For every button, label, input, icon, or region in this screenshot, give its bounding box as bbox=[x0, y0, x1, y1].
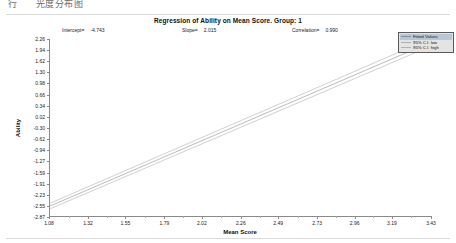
header-caption: 行光度分布图 bbox=[8, 0, 83, 10]
x-axis-title: Mean Score bbox=[49, 229, 431, 235]
y-tick-label: 0.98 bbox=[35, 80, 45, 86]
x-tick-label: 2.96 bbox=[350, 220, 360, 226]
x-tick-label: 1.32 bbox=[83, 220, 93, 226]
x-tick-label: 1.08 bbox=[44, 220, 54, 226]
series-line bbox=[49, 39, 431, 204]
x-tick-label: 2.73 bbox=[312, 220, 322, 226]
header-caption-right: 光度分布图 bbox=[36, 0, 84, 9]
intercept-label: Intercept= bbox=[62, 27, 84, 33]
y-tick-label: -1.59 bbox=[34, 170, 45, 176]
correlation-value: 0.990 bbox=[325, 27, 338, 33]
series-line bbox=[49, 46, 431, 209]
slope-stat: Slope=2.015 bbox=[182, 27, 216, 33]
correlation-label: Correlation= bbox=[292, 27, 319, 33]
legend-swatch-icon bbox=[401, 42, 411, 43]
y-tick-label: 1.94 bbox=[35, 47, 45, 53]
x-tick-label: 2.26 bbox=[236, 220, 246, 226]
chart-canvas: Regression of Ability on Mean Score. Gro… bbox=[0, 15, 456, 243]
correlation-stat: Correlation=0.990 bbox=[292, 27, 338, 33]
y-tick-label: 1.62 bbox=[35, 58, 45, 64]
chart-title: Regression of Ability on Mean Score. Gro… bbox=[0, 17, 456, 24]
y-tick-label: -0.94 bbox=[34, 147, 45, 153]
legend-swatch-icon bbox=[401, 36, 411, 37]
intercept-value: -4.743 bbox=[90, 27, 104, 33]
series-line bbox=[49, 42, 431, 206]
intercept-stat: Intercept=-4.743 bbox=[62, 27, 105, 33]
x-tick-label: 1.55 bbox=[121, 220, 131, 226]
x-tick-label: 2.49 bbox=[273, 220, 283, 226]
slope-value: 2.015 bbox=[204, 27, 217, 33]
y-tick-label: 0.34 bbox=[35, 103, 45, 109]
y-tick-label: -2.55 bbox=[34, 203, 45, 209]
y-tick-label: 1.30 bbox=[35, 69, 45, 75]
legend-item-label: 95% C.I. low bbox=[413, 40, 437, 45]
x-tick-label: 2.02 bbox=[197, 220, 207, 226]
y-tick-label: -2.23 bbox=[34, 192, 45, 198]
y-tick-label: -1.27 bbox=[34, 158, 45, 164]
y-tick-label: 0.02 bbox=[35, 114, 45, 120]
legend-item-label: 95% C.I. high bbox=[413, 45, 439, 50]
x-tick bbox=[431, 216, 432, 219]
plot-area: 2.261.941.621.300.980.660.340.02-0.30-0.… bbox=[49, 39, 431, 217]
x-tick-label: 1.79 bbox=[160, 220, 170, 226]
regression-plot-window: 行光度分布图 Regression of Ability on Mean Sco… bbox=[0, 0, 456, 243]
legend-item[interactable]: 95% C.I. high bbox=[400, 45, 452, 51]
footer-divider bbox=[6, 238, 450, 239]
header-caption-left: 行 bbox=[8, 0, 18, 9]
y-tick-label: -0.62 bbox=[34, 136, 45, 142]
legend-item-label: Fitted Values bbox=[413, 34, 438, 39]
window-header-strip: 行光度分布图 bbox=[0, 0, 456, 15]
regression-lines bbox=[49, 39, 431, 217]
x-tick-label: 3.19 bbox=[387, 220, 397, 226]
regression-statistics: Intercept=-4.743 Slope=2.015 Correlation… bbox=[0, 27, 456, 35]
y-tick-label: -0.30 bbox=[34, 125, 45, 131]
x-tick-label: 3.43 bbox=[426, 220, 436, 226]
slope-label: Slope= bbox=[182, 27, 198, 33]
y-tick-label: 2.26 bbox=[35, 36, 45, 42]
legend-swatch-icon bbox=[401, 47, 411, 48]
chart-legend[interactable]: Fitted Values95% C.I. low95% C.I. high bbox=[398, 32, 454, 53]
y-tick-label: -1.91 bbox=[34, 181, 45, 187]
y-axis-title: Ability bbox=[15, 119, 21, 137]
y-tick-label: 0.66 bbox=[35, 92, 45, 98]
